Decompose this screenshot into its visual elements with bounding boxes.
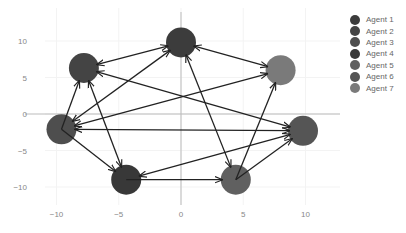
legend-item-agent-2[interactable]: Agent 2 bbox=[350, 25, 394, 36]
legend-swatch bbox=[350, 72, 360, 82]
svg-text:5: 5 bbox=[241, 210, 246, 219]
legend-item-agent-6[interactable]: Agent 6 bbox=[350, 71, 394, 82]
edge bbox=[96, 46, 168, 65]
legend-swatch bbox=[350, 60, 360, 70]
legend-label: Agent 5 bbox=[366, 61, 394, 70]
legend-item-agent-3[interactable]: Agent 3 bbox=[350, 37, 394, 48]
network-chart: −10−505101050−5−10 bbox=[0, 0, 406, 233]
node-agent-2[interactable] bbox=[69, 53, 99, 83]
legend-item-agent-7[interactable]: Agent 7 bbox=[350, 82, 394, 93]
legend-label: Agent 7 bbox=[366, 84, 394, 93]
legend-swatch bbox=[350, 49, 360, 59]
svg-text:0: 0 bbox=[179, 210, 184, 219]
legend-swatch bbox=[350, 83, 360, 93]
node-agent-3[interactable] bbox=[46, 114, 76, 144]
legend-label: Agent 1 bbox=[366, 15, 394, 24]
legend-item-agent-5[interactable]: Agent 5 bbox=[350, 60, 394, 71]
svg-text:−5: −5 bbox=[114, 210, 124, 219]
legend-swatch bbox=[350, 26, 360, 36]
svg-text:−10: −10 bbox=[50, 210, 64, 219]
edge bbox=[194, 46, 269, 67]
edge bbox=[139, 134, 291, 176]
legend: Agent 1 Agent 2 Agent 3 Agent 4 Agent 5 … bbox=[350, 14, 394, 94]
svg-text:10: 10 bbox=[18, 37, 27, 46]
legend-label: Agent 4 bbox=[366, 49, 394, 58]
legend-item-agent-4[interactable]: Agent 4 bbox=[350, 48, 394, 59]
legend-item-agent-1[interactable]: Agent 1 bbox=[350, 14, 394, 25]
svg-text:−10: −10 bbox=[13, 183, 27, 192]
svg-text:0: 0 bbox=[23, 110, 28, 119]
edge bbox=[96, 72, 290, 128]
edge bbox=[74, 129, 290, 130]
node-agent-6[interactable] bbox=[288, 116, 318, 146]
svg-text:5: 5 bbox=[23, 74, 28, 83]
legend-label: Agent 2 bbox=[366, 27, 394, 36]
legend-swatch bbox=[350, 37, 360, 47]
node-agent-7[interactable] bbox=[266, 55, 296, 85]
svg-text:−5: −5 bbox=[18, 147, 28, 156]
legend-label: Agent 3 bbox=[366, 38, 394, 47]
legend-swatch bbox=[350, 15, 360, 25]
svg-text:10: 10 bbox=[301, 210, 310, 219]
node-agent-1[interactable] bbox=[166, 27, 196, 57]
legend-label: Agent 6 bbox=[366, 72, 394, 81]
